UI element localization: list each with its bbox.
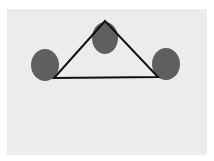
node-top: [92, 22, 118, 54]
triangle-diagram: [0, 0, 214, 161]
